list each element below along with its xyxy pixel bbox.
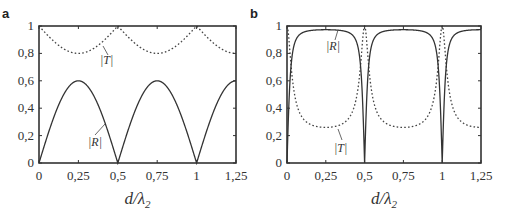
y-tick-label: 0,2 [266,128,282,143]
plot-frame [287,26,481,163]
x-tick-label: 0,5 [356,168,372,183]
legend-T: |T| [334,141,347,155]
y-tick-label: 0,2 [18,128,34,143]
y-tick-label: 1 [276,18,283,33]
series-T-line [39,26,236,53]
panel-b: 00,250,50,7511,2500,20,40,60,81bd/λ2|R||… [250,6,492,210]
y-tick-label: 0,6 [18,73,35,88]
y-tick-label: 0 [28,155,35,170]
y-tick-label: 0,4 [18,100,35,115]
legend-R: |R| [88,135,102,149]
x-tick-label: 1,25 [470,168,493,183]
y-tick-label: 0,8 [266,45,282,60]
x-axis-label: d/λ2 [124,189,151,210]
x-tick-label: 0,25 [67,168,90,183]
x-tick-label: 0,5 [110,168,126,183]
x-tick-label: 0 [284,168,291,183]
panel-label: b [250,6,258,21]
x-tick-label: 1 [439,168,446,183]
panel-a: 00,250,50,7511,2500,20,40,60,81ad/λ2|T||… [2,6,247,210]
x-tick-label: 0,25 [314,168,337,183]
figure: 00,250,50,7511,2500,20,40,60,81ad/λ2|T||… [0,0,507,210]
series-T-line [287,26,481,127]
panel-label: a [2,6,10,21]
y-tick-label: 1 [28,18,35,33]
x-tick-label: 0,75 [392,168,415,183]
legend-R: |R| [326,39,340,53]
x-axis-label: d/λ2 [371,189,398,210]
y-tick-label: 0,8 [18,45,34,60]
series-R-line [287,30,481,163]
y-tick-label: 0 [276,155,283,170]
series-R-line [39,81,236,163]
legend-T: |T| [100,53,113,67]
x-tick-label: 0,75 [146,168,169,183]
y-tick-label: 0,6 [266,73,283,88]
x-tick-label: 1,25 [225,168,248,183]
x-tick-label: 0 [36,168,43,183]
plot-frame [39,26,236,163]
x-tick-label: 1 [193,168,200,183]
y-tick-label: 0,4 [266,100,283,115]
